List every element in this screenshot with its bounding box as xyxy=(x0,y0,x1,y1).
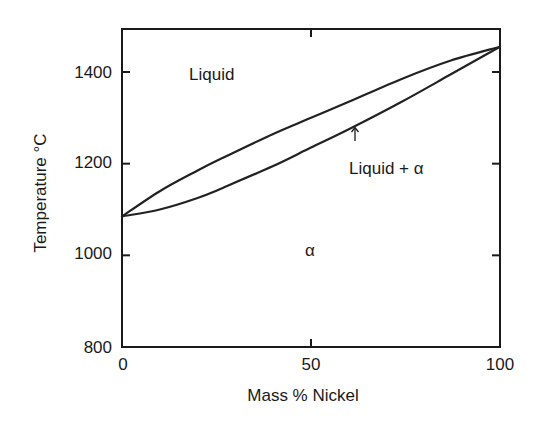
axis-ticks xyxy=(122,29,500,347)
solidus-curve xyxy=(122,47,500,217)
x-tick-label-0: 0 xyxy=(118,355,127,374)
y-tick-label-1400: 1400 xyxy=(74,63,112,82)
region-label-alpha: α xyxy=(305,241,315,260)
region-label-liquid-alpha: Liquid + α xyxy=(349,159,424,178)
y-axis-title: Temperature °C xyxy=(31,133,50,252)
liquidus-curve xyxy=(122,47,500,217)
x-axis-title: Mass % Nickel xyxy=(247,386,358,405)
arrow-up-icon xyxy=(352,128,359,142)
x-tick-label-100: 100 xyxy=(486,355,514,374)
phase-diagram-svg: 1400 1200 1000 800 0 50 100 Mass % Nicke… xyxy=(0,0,539,428)
plot-frame xyxy=(122,29,500,347)
y-tick-label-1200: 1200 xyxy=(74,153,112,172)
region-label-liquid: Liquid xyxy=(189,65,234,84)
y-tick-label-1000: 1000 xyxy=(74,244,112,263)
y-tick-label-800: 800 xyxy=(84,338,112,357)
phase-diagram-chart: 1400 1200 1000 800 0 50 100 Mass % Nicke… xyxy=(0,0,539,428)
x-tick-label-50: 50 xyxy=(302,355,321,374)
